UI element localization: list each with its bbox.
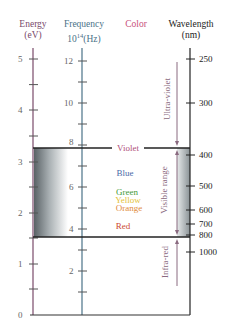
wavelength-label-300: 300 bbox=[199, 98, 213, 108]
energy-label-5: 5 bbox=[18, 54, 23, 64]
wavelength-label-400: 400 bbox=[199, 150, 213, 160]
visible-range-label: Visible range bbox=[159, 160, 169, 220]
color-label-orange: Orange bbox=[116, 203, 143, 213]
energy-label-0: 0 bbox=[18, 310, 23, 320]
color-label-violet: Violet bbox=[117, 143, 139, 153]
energy-label-4: 4 bbox=[18, 105, 23, 115]
color-label-blue: Blue bbox=[117, 168, 134, 178]
frequency-label-4: 4 bbox=[69, 224, 74, 234]
ultraviolet-label: Ultra-violet bbox=[162, 69, 172, 129]
wavelength-label-800: 800 bbox=[199, 230, 213, 240]
wavelength-label-500: 500 bbox=[199, 181, 213, 191]
energy-label-2: 2 bbox=[18, 208, 23, 218]
infrared-label: Infra-red bbox=[160, 237, 170, 287]
frequency-label-12: 12 bbox=[64, 56, 73, 66]
frequency-label-6: 6 bbox=[69, 182, 74, 192]
diagram-graphics bbox=[0, 0, 238, 332]
color-label-red: Red bbox=[116, 221, 131, 231]
electromagnetic-spectrum-diagram: Energy (eV) Frequency 1014(Hz) Color Wav… bbox=[0, 0, 238, 332]
frequency-label-8: 8 bbox=[69, 137, 74, 147]
visible-band-left-gradient bbox=[34, 148, 68, 237]
frequency-label-2: 2 bbox=[69, 266, 74, 276]
wavelength-label-250: 250 bbox=[199, 54, 213, 64]
wavelength-label-1000: 1000 bbox=[199, 247, 217, 257]
wavelength-label-700: 700 bbox=[199, 219, 213, 229]
energy-label-1: 1 bbox=[18, 259, 23, 269]
energy-label-3: 3 bbox=[18, 157, 23, 167]
wavelength-label-600: 600 bbox=[199, 205, 213, 215]
frequency-label-10: 10 bbox=[64, 98, 73, 108]
